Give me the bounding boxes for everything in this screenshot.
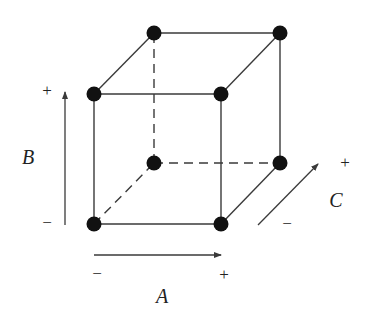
factor-a-low-label: − <box>92 265 102 282</box>
cube-edges <box>94 33 280 224</box>
factor-c-low-label: − <box>282 215 292 232</box>
cube-edge-solid <box>94 33 154 94</box>
cube-edge-dashed <box>94 163 154 224</box>
vertex-front-top-right <box>214 87 229 102</box>
vertex-back-bottom-right <box>273 156 288 171</box>
vertex-back-bottom-left <box>147 156 162 171</box>
factorial-cube-diagram: B + − A − + C + − <box>0 0 368 314</box>
vertex-back-top-right <box>273 26 288 41</box>
vertex-back-top-left <box>147 26 162 41</box>
cube-canvas <box>0 0 368 314</box>
cube-edge-solid <box>221 33 280 94</box>
factor-b-low-label: − <box>42 214 52 231</box>
vertex-front-bottom-left <box>87 217 102 232</box>
factor-c-high-label: + <box>340 154 350 171</box>
factor-a-label: A <box>156 286 168 306</box>
factor-b-high-label: + <box>42 82 52 99</box>
factor-a-high-label: + <box>219 266 229 283</box>
factor-b-label: B <box>22 147 34 167</box>
vertex-front-bottom-right <box>214 217 229 232</box>
cube-edge-solid <box>221 163 280 224</box>
vertex-front-top-left <box>87 87 102 102</box>
factor-c-label: C <box>329 190 342 210</box>
